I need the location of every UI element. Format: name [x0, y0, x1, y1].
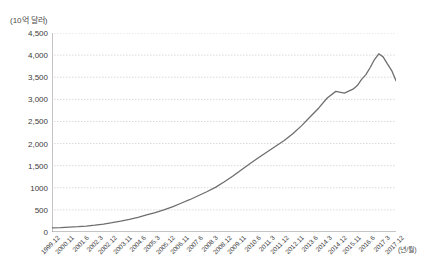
- y-axis-tick: 2,000: [28, 139, 48, 148]
- gridlines: [54, 33, 396, 210]
- y-axis-tick-labels: 050010001,5002,0002,5003,0003,5004,0004,…: [0, 33, 48, 232]
- y-axis-tick: 500: [35, 205, 48, 214]
- y-axis-tick: 3,500: [28, 73, 48, 82]
- y-axis-tick: 1,500: [28, 161, 48, 170]
- y-axis-title: (10억 달러): [10, 14, 47, 25]
- series-line-foreign-reserves: [52, 54, 396, 228]
- y-axis-tick: 2,500: [28, 117, 48, 126]
- y-axis-tick: 4,000: [28, 51, 48, 60]
- x-axis-title: (년/월): [398, 244, 417, 254]
- y-axis-tick: 4,500: [28, 29, 48, 38]
- chart-canvas: [52, 33, 396, 232]
- y-axis-tick: 3,000: [28, 95, 48, 104]
- y-axis-tick: 0: [44, 228, 48, 237]
- x-axis-tick-labels: 1999.122000.112001.62002.32002.122003.11…: [52, 234, 396, 277]
- y-axis-tick: 1000: [30, 183, 48, 192]
- line-chart: (10억 달러) 050010001,5002,0002,5003,0003,5…: [0, 0, 436, 277]
- plot-area: [52, 33, 396, 232]
